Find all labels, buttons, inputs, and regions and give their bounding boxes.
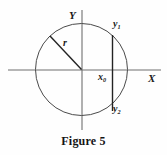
abscissa-label: x0: [98, 72, 106, 82]
geometry-diagram: [0, 0, 167, 155]
y-axis-label: Y: [69, 10, 76, 21]
chord-upper-label-subscript: 1: [117, 23, 120, 30]
x-axis-label: X: [148, 73, 155, 84]
chord-upper-label: y1: [113, 19, 121, 29]
chord-lower-label-subscript: 2: [117, 108, 120, 115]
chord-lower-label: y2: [113, 104, 121, 114]
figure-container: Y X r y1 y2 x0 Figure 5: [0, 0, 167, 155]
figure-caption: Figure 5: [0, 134, 167, 149]
abscissa-label-subscript: 0: [103, 76, 106, 83]
radius-label: r: [63, 38, 67, 48]
